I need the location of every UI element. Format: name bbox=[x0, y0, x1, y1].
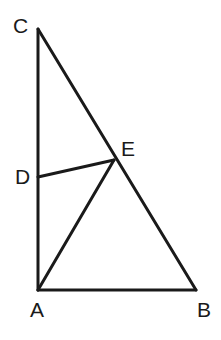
vertex-label-c: C bbox=[13, 15, 28, 36]
vertex-label-b: B bbox=[197, 299, 211, 320]
segment-AE bbox=[38, 160, 114, 290]
geometry-figure: C D E A B bbox=[0, 0, 221, 340]
vertex-label-a: A bbox=[30, 299, 44, 320]
geometry-diagram-canvas bbox=[0, 0, 221, 340]
vertex-label-e: E bbox=[121, 138, 135, 159]
segment-DE bbox=[38, 160, 114, 177]
vertex-label-d: D bbox=[15, 166, 30, 187]
